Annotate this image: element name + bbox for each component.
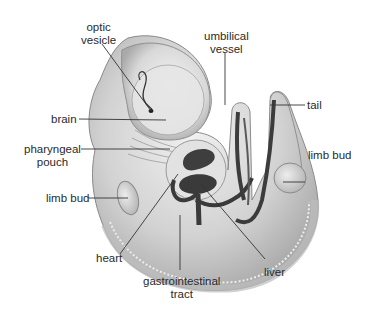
- label-brain: brain: [51, 113, 77, 126]
- label-gastrointestinal-tract: gastrointestinal tract: [143, 275, 220, 301]
- label-limb-bud-right: limb bud: [308, 149, 351, 162]
- label-umbilical-vessel: umbilical vessel: [204, 30, 249, 56]
- label-pharyngeal-pouch: pharyngeal pouch: [24, 143, 81, 169]
- label-liver: liver: [264, 266, 285, 279]
- label-optic-vesicle: optic vesicle: [81, 21, 116, 47]
- label-limb-bud-left: limb bud: [46, 192, 89, 205]
- limb-bud-right: [274, 163, 306, 193]
- embryo-diagram: optic vesicle brain pharyngeal pouch lim…: [0, 0, 365, 315]
- label-heart: heart: [96, 252, 122, 265]
- label-tail: tail: [307, 99, 322, 112]
